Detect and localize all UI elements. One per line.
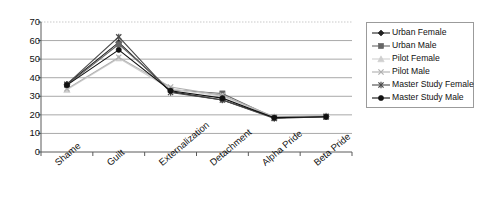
legend-item: Urban Female	[369, 26, 471, 39]
legend-item-label: Urban Female	[391, 28, 446, 37]
x-axis-tick-label: Beta Pride	[312, 131, 352, 167]
chart-legend: Urban FemaleUrban MalePilot FemalePilot …	[366, 22, 474, 108]
legend-item: Pilot Male	[369, 65, 471, 78]
plot-area: 706050403020100 ShameGuiltExternalizatio…	[0, 0, 360, 218]
legend-item: Master Study Female	[369, 78, 471, 91]
asterisk-marker-icon	[371, 79, 391, 91]
x-axis-tick-label: Externalization	[157, 120, 211, 168]
diamond-marker-icon	[371, 27, 391, 39]
x-axis-tick-label: Shame	[53, 141, 82, 168]
x-axis-tick-label: Alpha Pride	[260, 128, 304, 167]
square-marker-icon	[371, 40, 391, 52]
x-axis-tick-label: Detachment	[208, 127, 254, 168]
legend-item-label: Pilot Male	[391, 67, 430, 76]
legend-item: Pilot Female	[369, 52, 471, 65]
circle-marker-icon	[371, 92, 391, 104]
legend-item: Master Study Male	[369, 91, 471, 104]
x-axis-tick-labels: ShameGuiltExternalizationDetachmentAlpha…	[0, 0, 360, 218]
triangle-marker-icon	[371, 53, 391, 65]
legend-item-label: Master Study Female	[391, 80, 474, 89]
chart-figure: 706050403020100 ShameGuiltExternalizatio…	[0, 0, 477, 218]
cross-x-marker-icon	[371, 66, 391, 78]
legend-item-label: Master Study Male	[391, 93, 464, 102]
legend-item-label: Pilot Female	[391, 54, 440, 63]
legend-item: Urban Male	[369, 39, 471, 52]
legend-item-label: Urban Male	[391, 41, 436, 50]
x-axis-tick-label: Guilt	[105, 147, 126, 167]
